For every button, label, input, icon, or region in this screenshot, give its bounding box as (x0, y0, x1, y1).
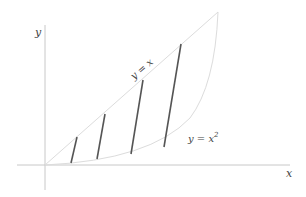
segment-2 (97, 114, 105, 159)
region-diagram: y x y = x y = x2 (0, 0, 306, 197)
segment-3 (131, 80, 143, 154)
segment-4 (164, 44, 181, 147)
label-parabola-exponent: 2 (213, 131, 219, 139)
x-axis-label: x (286, 167, 293, 180)
label-y-equals-x: y = x (127, 56, 155, 82)
label-parabola-base: y = x (187, 133, 214, 144)
label-y-equals-x-squared: y = x2 (187, 131, 219, 144)
y-axis-label: y (34, 26, 42, 39)
